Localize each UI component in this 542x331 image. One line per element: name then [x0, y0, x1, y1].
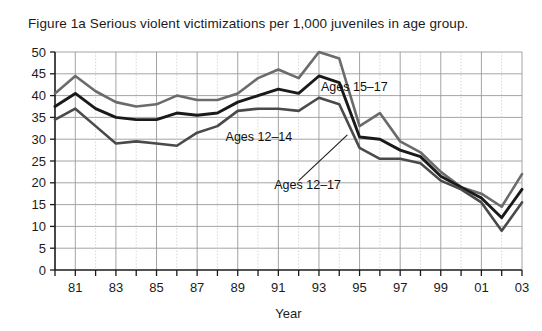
- series-line-ages-12-17: [55, 76, 522, 218]
- x-tick-label: 01: [474, 280, 488, 295]
- figure-container: Figure 1a Serious violent victimizations…: [0, 0, 542, 331]
- x-tick-label: 93: [312, 280, 326, 295]
- x-tick-label: 99: [434, 280, 448, 295]
- x-tick-label: 81: [68, 280, 82, 295]
- y-tick-label: 35: [32, 110, 46, 125]
- annotation-leader-line: [299, 135, 348, 181]
- y-axis-tick-labels: 05101520253035404550: [32, 45, 46, 278]
- y-tick-label: 5: [39, 241, 46, 256]
- x-tick-label: 03: [515, 280, 529, 295]
- x-tick-label: 87: [190, 280, 204, 295]
- series-annotation: Ages 12–17: [274, 178, 341, 192]
- x-tick-label: 89: [231, 280, 245, 295]
- y-tick-label: 10: [32, 219, 46, 234]
- chart-plot-area: 05101520253035404550 8183858789919395979…: [0, 40, 542, 331]
- x-tick-label: 91: [271, 280, 285, 295]
- x-tick-label: 97: [393, 280, 407, 295]
- y-tick-label: 45: [32, 66, 46, 81]
- x-tick-label: 83: [109, 280, 123, 295]
- series-annotation: Ages 12–14: [226, 130, 293, 144]
- y-tick-label: 30: [32, 132, 46, 147]
- x-axis-title: Year: [275, 306, 302, 321]
- y-tick-label: 40: [32, 88, 46, 103]
- y-tick-label: 15: [32, 197, 46, 212]
- y-tick-label: 50: [32, 45, 46, 60]
- line-chart: 05101520253035404550 8183858789919395979…: [0, 40, 542, 331]
- x-axis-tick-labels: 818385878991939597990103: [68, 280, 529, 295]
- figure-title: Figure 1a Serious violent victimizations…: [28, 16, 468, 31]
- x-tick-label: 95: [352, 280, 366, 295]
- axis-tick-marks: [50, 52, 522, 276]
- y-tick-label: 20: [32, 175, 46, 190]
- x-tick-label: 85: [149, 280, 163, 295]
- y-tick-label: 0: [39, 263, 46, 278]
- y-tick-label: 25: [32, 154, 46, 169]
- series-annotation: Ages 15–17: [321, 80, 388, 94]
- grid-major-lines: [55, 52, 522, 270]
